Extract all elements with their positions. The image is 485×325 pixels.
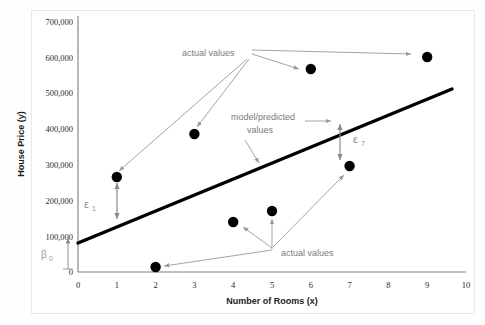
x-tick-label: 9 <box>425 280 429 290</box>
beta0-subscript: 0 <box>49 255 53 262</box>
x-tick-label: 6 <box>309 280 313 290</box>
x-tick-label: 3 <box>192 280 196 290</box>
residual-7-label: ε <box>353 133 358 145</box>
x-tick-label: 0 <box>76 280 80 290</box>
beta0-label: β <box>41 249 47 260</box>
y-tick-label: 200,000 <box>45 196 73 206</box>
leader-arrow-to-point-7 <box>273 175 344 247</box>
y-axis-title: House Price (y) <box>16 111 26 177</box>
data-point <box>112 172 122 182</box>
annotation-model-predicted-line1: model/predicted <box>231 112 295 122</box>
y-tick-label: 700,000 <box>45 17 73 27</box>
annotation-actual-values-bottom: actual values <box>281 248 334 258</box>
leader-arrow-to-point-9 <box>252 50 411 54</box>
x-tick-label: 7 <box>347 280 351 290</box>
y-tick-label: 500,000 <box>45 88 73 98</box>
data-point <box>422 52 432 62</box>
x-tick-label: 4 <box>231 280 236 290</box>
scatter-plot-canvas: 700,000 600,000 500,000 400,000 300,000 … <box>0 0 485 325</box>
data-point <box>267 206 277 216</box>
leader-arrow-to-point-1 <box>119 59 247 171</box>
leader-arrow-to-point-4 <box>243 227 272 248</box>
y-tick-label: 400,000 <box>45 124 73 134</box>
x-tick-label: 8 <box>386 280 390 290</box>
data-point <box>344 161 354 171</box>
annotation-actual-values-top: actual values <box>182 48 235 58</box>
leader-arrow-to-point-6 <box>252 54 299 69</box>
x-tick-label: 1 <box>115 280 119 290</box>
data-point <box>228 217 238 227</box>
leader-arrow-to-point-2 <box>164 250 272 266</box>
y-tick-label: 100,000 <box>45 232 73 242</box>
residual-1-subscript: 1 <box>92 205 96 212</box>
x-axis-title: Number of Rooms (x) <box>226 296 318 306</box>
data-point <box>306 64 316 74</box>
leader-arrow-to-line-left <box>245 140 259 163</box>
data-point <box>150 262 160 272</box>
x-tick-label: 10 <box>462 280 471 290</box>
residual-7-subscript: 7 <box>361 140 365 147</box>
chart-figure: 700,000 600,000 500,000 400,000 300,000 … <box>0 0 485 325</box>
y-tick-label: 300,000 <box>45 160 73 170</box>
x-tick-label: 2 <box>153 280 157 290</box>
data-point <box>189 129 199 139</box>
y-tick-label: 600,000 <box>45 53 73 63</box>
x-tick-label: 5 <box>270 280 274 290</box>
residual-1-label: ε <box>84 198 89 210</box>
annotation-model-predicted-line2: values <box>247 125 274 135</box>
